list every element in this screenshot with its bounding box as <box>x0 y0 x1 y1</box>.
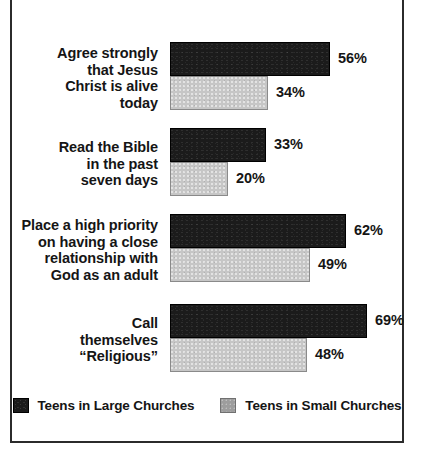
bar-value-small: 34% <box>276 84 305 100</box>
bar-value-large: 56% <box>338 50 367 66</box>
category-label: Call themselves “Religious” <box>0 315 158 365</box>
chart-frame: Agree strongly that Jesus Christ is aliv… <box>10 0 404 443</box>
legend-label: Teens in Small Churches <box>245 398 401 413</box>
bar-small-churches <box>170 248 310 282</box>
bar-pair: 62% 49% <box>170 212 402 288</box>
bar-group: Agree strongly that Jesus Christ is aliv… <box>12 40 402 116</box>
bar-pair: 33% 20% <box>170 126 402 202</box>
bar-large-churches <box>170 304 367 338</box>
bar-group: Place a high priority on having a close … <box>12 212 402 288</box>
bar-value-small: 49% <box>318 256 347 272</box>
bar-value-large: 62% <box>354 222 383 238</box>
bar-group: Read the Bible in the past seven days 33… <box>12 126 402 202</box>
bar-value-small: 20% <box>236 170 265 186</box>
plot-area: Agree strongly that Jesus Christ is aliv… <box>12 0 402 441</box>
legend-item-small-churches: Teens in Small Churches <box>220 398 401 413</box>
bar-pair: 69% 48% <box>170 302 402 378</box>
bar-value-large: 33% <box>274 136 303 152</box>
legend-item-large-churches: Teens in Large Churches <box>13 398 195 413</box>
black-swatch-icon <box>13 398 29 413</box>
category-label: Place a high priority on having a close … <box>0 217 158 283</box>
legend-label: Teens in Large Churches <box>38 398 195 413</box>
bar-group: Call themselves “Religious” 69% 48% <box>12 302 402 378</box>
category-label: Agree strongly that Jesus Christ is aliv… <box>0 45 158 111</box>
bar-large-churches <box>170 214 346 248</box>
bar-small-churches <box>170 162 228 196</box>
bar-pair: 56% 34% <box>170 40 402 116</box>
bar-large-churches <box>170 128 266 162</box>
category-label: Read the Bible in the past seven days <box>0 139 158 189</box>
gray-swatch-icon <box>220 398 236 413</box>
bar-large-churches <box>170 42 330 76</box>
bar-small-churches <box>170 338 307 372</box>
chart-legend: Teens in Large Churches Teens in Small C… <box>12 390 402 420</box>
bar-small-churches <box>170 76 268 110</box>
bar-value-small: 48% <box>315 346 344 362</box>
bar-value-large: 69% <box>375 312 404 328</box>
